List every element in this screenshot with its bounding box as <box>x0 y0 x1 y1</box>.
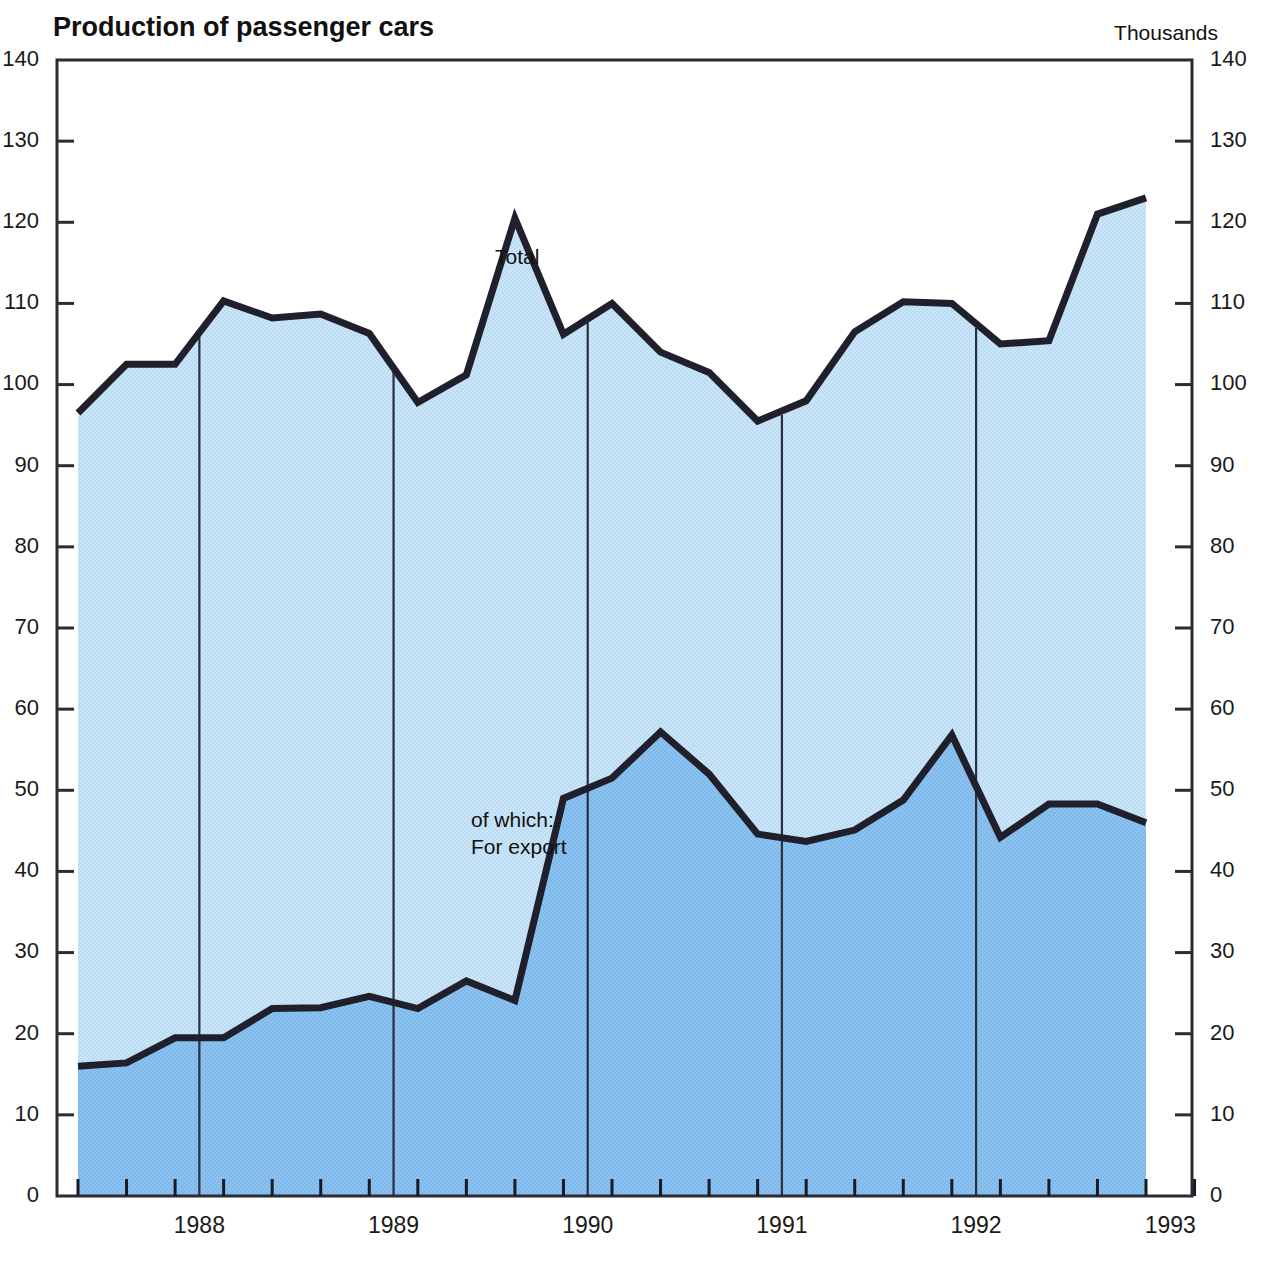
y-axis-left-tick-label: 130 <box>2 127 39 152</box>
y-axis-left-tick-label: 60 <box>15 695 39 720</box>
y-axis-right-tick-label: 100 <box>1210 370 1247 395</box>
y-axis-right-tick-label: 70 <box>1210 614 1234 639</box>
unit-label: Thousands <box>1114 21 1218 44</box>
passenger-car-production-chart: Production of passenger cars Thousands 1… <box>0 0 1274 1274</box>
y-axis-left-tick-label: 30 <box>15 938 39 963</box>
x-axis-year-label: 1988 <box>174 1212 225 1238</box>
y-axis-right-tick-label: 90 <box>1210 452 1234 477</box>
y-axis-right-tick-label: 30 <box>1210 938 1234 963</box>
y-axis-left-tick-label: 50 <box>15 776 39 801</box>
x-axis-year-label: 1993 <box>1145 1212 1196 1238</box>
y-axis-right-tick-label: 0 <box>1210 1182 1222 1207</box>
y-axis-left-tick-label: 10 <box>15 1101 39 1126</box>
y-axis-right-tick-label: 60 <box>1210 695 1234 720</box>
y-axis-left-tick-label: 0 <box>27 1182 39 1207</box>
total-series-label: Total <box>495 245 539 268</box>
y-axis-left-tick-label: 100 <box>2 370 39 395</box>
export-series-label-line2: For export <box>471 835 567 858</box>
y-axis-left-tick-label: 140 <box>2 46 39 71</box>
y-axis-right-tick-label: 130 <box>1210 127 1247 152</box>
y-axis-right-tick-label: 80 <box>1210 533 1234 558</box>
export-series-label-line1: of which: <box>471 808 554 831</box>
y-axis-left-tick-label: 20 <box>15 1020 39 1045</box>
y-axis-left-tick-label: 70 <box>15 614 39 639</box>
x-axis-year-label: 1990 <box>562 1212 613 1238</box>
y-axis-left-tick-label: 120 <box>2 208 39 233</box>
y-axis-right-tick-label: 140 <box>1210 46 1247 71</box>
x-axis-year-label: 1992 <box>951 1212 1002 1238</box>
y-axis-right-tick-label: 110 <box>1210 289 1245 314</box>
y-axis-left-tick-label: 80 <box>15 533 39 558</box>
x-axis-year-label: 1991 <box>756 1212 807 1238</box>
y-axis-left-tick-label: 90 <box>15 452 39 477</box>
y-axis-right-tick-label: 40 <box>1210 857 1234 882</box>
chart-container: Production of passenger cars Thousands 1… <box>0 0 1274 1274</box>
page-title: Production of passenger cars <box>53 12 434 42</box>
y-axis-right-tick-label: 120 <box>1210 208 1247 233</box>
series-areas <box>78 198 1146 1196</box>
y-axis-right-tick-label: 50 <box>1210 776 1234 801</box>
x-axis-year-label: 1989 <box>368 1212 419 1238</box>
y-axis-left-tick-label: 110 <box>4 289 39 314</box>
y-axis-left-tick-label: 40 <box>15 857 39 882</box>
y-axis-right-tick-label: 20 <box>1210 1020 1234 1045</box>
y-axis-right-tick-label: 10 <box>1210 1101 1234 1126</box>
